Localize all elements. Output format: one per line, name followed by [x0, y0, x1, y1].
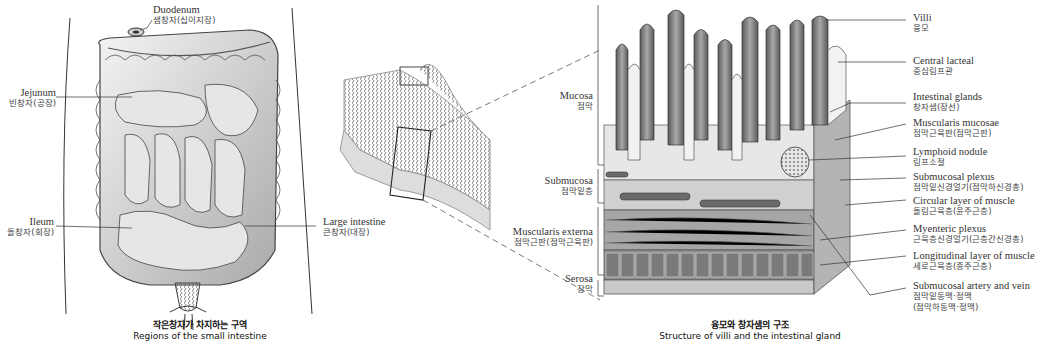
- label-ileum: Ileum 돌창자(회장): [0, 216, 54, 238]
- label-circular-muscle-layer: Circular layer of muscle 돌림근육층(윤주근층): [913, 195, 1015, 217]
- label-large-intestine: Large intestine 큰창자(대장): [323, 216, 386, 238]
- villi-tissue-block: [598, 5, 906, 296]
- label-mucosa: Mucosa 점막: [520, 90, 593, 112]
- label-longitudinal-muscle-layer: Longitudinal layer of muscle 세로근육층(종주근층): [913, 250, 1035, 272]
- label-villi: Villi 융모: [913, 12, 932, 34]
- label-lymphoid-nodule: Lymphoid nodule 림프소절: [913, 146, 987, 168]
- label-jejunum: Jejunum 빈창자(공장): [0, 87, 56, 109]
- caption-villi-structure: 융모와 창자샘의 구조 Structure of villi and the i…: [620, 319, 880, 342]
- label-central-lacteal: Central lacteal 중심림프관: [913, 55, 974, 77]
- caption-small-intestine-regions: 작은창자가 차지하는 구역 Regions of the small intes…: [100, 319, 300, 342]
- label-intestinal-glands: Intestinal glands 창자샘(장선): [913, 91, 982, 113]
- label-myenteric-plexus: Myenteric plexus 근육층신경얼기(근층간신경총): [913, 223, 1024, 245]
- label-muscularis-externa: Muscularis externa 점막근판(점막근육판): [480, 226, 593, 248]
- label-submucosa: Submucosa 점막밑층: [520, 175, 593, 197]
- label-duodenum: Duodenum 샘창자(십이지장): [153, 4, 216, 26]
- label-muscularis-mucosae: Muscularis mucosae 점막근육판(점막근판): [913, 117, 999, 139]
- label-submucosal-plexus: Submucosal plexus 점막밑신경얼기(점막하신경총): [913, 171, 1024, 193]
- label-serosa: Serosa 장막: [520, 273, 593, 295]
- anatomy-figure: Duodenum 샘창자(십이지장) Jejunum 빈창자(공장) Ileum…: [0, 0, 1049, 344]
- abdomen-drawing: [56, 8, 316, 330]
- label-submucosal-artery-vein: Submucosal artery and vein 점막밑동맥·정맥 (점막하…: [913, 280, 1030, 313]
